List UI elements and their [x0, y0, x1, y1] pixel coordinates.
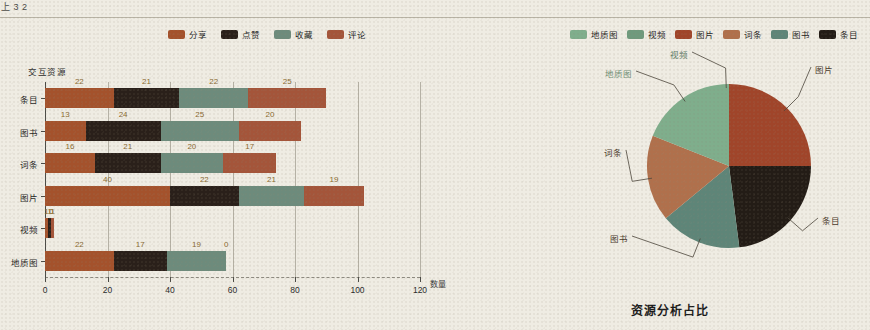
y-axis-tick — [41, 98, 45, 99]
y-axis-category-label: 条目 — [20, 93, 38, 105]
bar-segment[interactable] — [248, 88, 326, 108]
bar-segment[interactable] — [114, 88, 180, 108]
bar-segment-value: 21 — [142, 77, 151, 86]
pie-callout-label: 视频 — [470, 48, 688, 60]
bar-segment-value: 40 — [103, 175, 112, 184]
x-axis-tick-label: 80 — [290, 285, 299, 295]
bar-segment[interactable] — [45, 121, 86, 141]
bar-segment-value: 17 — [136, 240, 145, 249]
bar-segment[interactable] — [179, 88, 248, 108]
bar-segment-value: 25 — [283, 77, 292, 86]
pie-leader-line — [784, 67, 811, 111]
bar-segment-value: 22 — [75, 77, 84, 86]
y-axis-tick — [41, 196, 45, 197]
bar-segment[interactable] — [95, 153, 161, 173]
y-axis-category-label: 图书 — [20, 126, 38, 138]
x-axis-tick-label: 0 — [43, 285, 48, 295]
bar-segment[interactable] — [170, 186, 239, 206]
gridline — [358, 82, 359, 277]
bar-segment-value: 21 — [123, 142, 132, 151]
bar-segment-value: 19 — [192, 240, 201, 249]
y-axis-category-label: 地质图 — [11, 256, 38, 268]
x-axis-tick — [295, 277, 296, 282]
legend-label-share: 分享 — [189, 28, 207, 40]
bar-chart-plot-area: 2221222513242520162120174022211911012217… — [45, 82, 420, 277]
pie-leader-lines — [470, 20, 870, 300]
bar-segment[interactable] — [223, 153, 276, 173]
pie-callout-label: 条目 — [822, 214, 840, 226]
bar-row[interactable] — [45, 121, 420, 141]
bar-segment-value: 16 — [66, 142, 75, 151]
bar-segment-value: 24 — [119, 110, 128, 119]
legend-item-like[interactable]: 点赞 — [221, 28, 260, 40]
pie-leader-line — [626, 150, 652, 181]
x-axis-tick-label: 20 — [103, 285, 112, 295]
bar-chart-legend: 分享 点赞 收藏 评论 — [168, 28, 366, 40]
gridline — [295, 82, 296, 277]
bar-row[interactable] — [45, 186, 420, 206]
legend-label-favorite: 收藏 — [295, 28, 313, 40]
legend-item-share[interactable]: 分享 — [168, 28, 207, 40]
bar-segment[interactable] — [161, 153, 224, 173]
legend-item-favorite[interactable]: 收藏 — [274, 28, 313, 40]
bar-segment[interactable] — [45, 88, 114, 108]
bar-segment-value: 19 — [330, 175, 339, 184]
y-axis-tick — [41, 131, 45, 132]
bar-segment[interactable] — [304, 186, 363, 206]
y-axis-line — [45, 82, 46, 277]
bar-segment[interactable] — [239, 186, 305, 206]
page-top-fragment: 上 3 2 — [1, 0, 41, 13]
x-axis-tick — [45, 277, 46, 282]
y-axis-title: 交互资源 — [28, 65, 66, 77]
bar-segment[interactable] — [161, 121, 239, 141]
bar-segment[interactable] — [51, 218, 54, 238]
pie-leader-line — [692, 52, 726, 88]
y-axis-tick — [41, 163, 45, 164]
legend-swatch-like — [221, 30, 238, 39]
x-axis-tick — [233, 277, 234, 282]
x-axis-tick-label: 120 — [413, 285, 427, 295]
bar-segment[interactable] — [167, 251, 226, 271]
bar-row[interactable] — [45, 218, 420, 238]
y-axis-tick — [41, 228, 45, 229]
pie-callout-label: 地质图 — [470, 67, 632, 79]
gridline — [420, 82, 421, 277]
bar-segment[interactable] — [239, 121, 302, 141]
bar-row[interactable] — [45, 88, 420, 108]
y-axis-category-label: 图片 — [20, 191, 38, 203]
x-axis-tick-label: 60 — [228, 285, 237, 295]
legend-item-comment[interactable]: 评论 — [327, 28, 366, 40]
bar-segment-value: 1 — [51, 207, 55, 216]
bar-segment-value: 22 — [209, 77, 218, 86]
pie-callout-label: 图书 — [470, 232, 628, 244]
bar-segment[interactable] — [45, 251, 114, 271]
bar-segment[interactable] — [45, 186, 170, 206]
bar-segment-value: 22 — [200, 175, 209, 184]
x-axis-tick — [170, 277, 171, 282]
bar-segment-value: 0 — [224, 240, 228, 249]
bar-segment-value: 13 — [61, 110, 70, 119]
bar-segment[interactable] — [45, 153, 95, 173]
bar-segment[interactable] — [86, 121, 161, 141]
y-axis-tick — [41, 261, 45, 262]
bar-row[interactable] — [45, 251, 420, 271]
legend-swatch-favorite — [274, 30, 291, 39]
gridline — [170, 82, 171, 277]
x-axis-tick — [108, 277, 109, 282]
bar-segment-value: 17 — [245, 142, 254, 151]
pie-chart-title: 资源分析占比 — [470, 301, 870, 318]
legend-label-like: 点赞 — [242, 28, 260, 40]
bar-row[interactable] — [45, 153, 420, 173]
x-axis-tick — [420, 277, 421, 282]
bar-segment[interactable] — [114, 251, 167, 271]
header-divider — [0, 17, 870, 18]
x-axis-tick-label: 100 — [350, 285, 364, 295]
legend-swatch-comment — [327, 30, 344, 39]
y-axis-category-label: 视频 — [20, 223, 38, 235]
pie-leader-line — [788, 218, 818, 231]
bar-segment-value: 22 — [75, 240, 84, 249]
legend-swatch-share — [168, 30, 185, 39]
x-axis-tick-label: 40 — [165, 285, 174, 295]
pie-leader-line — [636, 71, 685, 101]
pie-callout-label: 词条 — [470, 146, 622, 158]
